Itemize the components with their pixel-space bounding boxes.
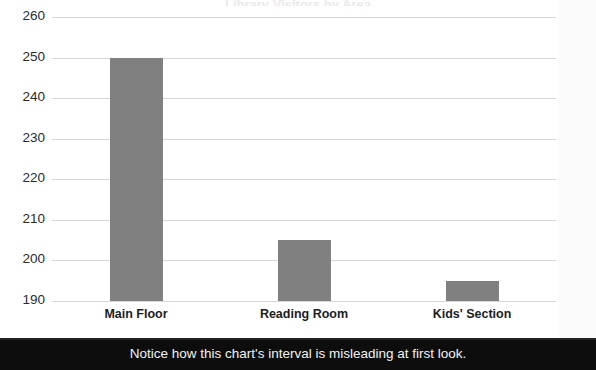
chart-title-cropped: Library Visitors by Area (0, 0, 596, 6)
x-axis-category-label: Main Floor (56, 307, 216, 321)
chart-panel: Library Visitors by Area 190200210220230… (0, 0, 596, 338)
y-axis-tick-label: 200 (0, 251, 45, 266)
y-axis-tick-label: 250 (0, 49, 45, 64)
gridline (52, 17, 556, 18)
y-axis-tick-label: 230 (0, 130, 45, 145)
caption-bar-divider (0, 338, 596, 340)
caption-text: Notice how this chart's interval is misl… (0, 346, 596, 361)
bar (446, 281, 499, 301)
plot-area (52, 17, 556, 301)
y-axis-tick-label: 240 (0, 89, 45, 104)
bar (110, 58, 163, 301)
x-axis-category-label: Reading Room (224, 307, 384, 321)
bar (278, 240, 331, 301)
y-axis-tick-label: 190 (0, 292, 45, 307)
y-axis-tick-label: 210 (0, 211, 45, 226)
chart-screenshot: Library Visitors by Area 190200210220230… (0, 0, 596, 370)
caption-bar: Notice how this chart's interval is misl… (0, 338, 596, 370)
gridline (52, 301, 556, 302)
x-axis-category-label: Kids' Section (392, 307, 552, 321)
plot-right-margin (558, 0, 596, 338)
y-axis-tick-label: 260 (0, 8, 45, 23)
y-axis-tick-label: 220 (0, 170, 45, 185)
